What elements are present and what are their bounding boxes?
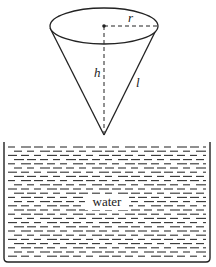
slant-label: l [136,75,140,90]
height-label: h [94,65,101,80]
cone-water-diagram: water r h l [0,0,216,267]
water-label: water [93,194,123,209]
